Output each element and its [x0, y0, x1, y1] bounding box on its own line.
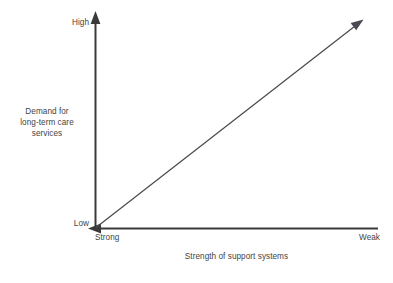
diagram-canvas: High Low Strong Weak Demand for long-ter…: [0, 0, 393, 283]
y-axis-arrowhead-icon: [91, 11, 101, 24]
y-axis-tick-label-low: Low: [0, 218, 89, 229]
y-axis-tick-label-high: High: [0, 17, 89, 28]
y-axis-title-line-3: services: [4, 128, 90, 139]
y-axis-title: Demand for long-term care services: [4, 106, 90, 140]
y-axis-title-line-2: long-term care: [4, 117, 90, 128]
y-axis-title-line-1: Demand for: [4, 106, 90, 117]
x-axis-title: Strength of support systems: [95, 251, 378, 262]
trend-line: [96, 25, 357, 228]
x-axis-tick-label-weak: Weak: [0, 232, 380, 243]
